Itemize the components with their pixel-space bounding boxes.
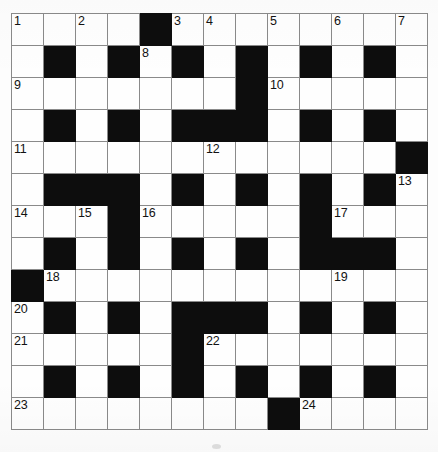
crossword-open-cell[interactable]: [108, 142, 140, 174]
crossword-open-cell[interactable]: 5: [268, 14, 300, 46]
crossword-open-cell[interactable]: [76, 334, 108, 366]
crossword-open-cell[interactable]: [396, 206, 428, 238]
crossword-open-cell[interactable]: [300, 14, 332, 46]
crossword-open-cell[interactable]: [76, 366, 108, 398]
crossword-open-cell[interactable]: [396, 334, 428, 366]
crossword-open-cell[interactable]: [236, 14, 268, 46]
crossword-open-cell[interactable]: 6: [332, 14, 364, 46]
crossword-open-cell[interactable]: 1: [12, 14, 44, 46]
crossword-open-cell[interactable]: [108, 398, 140, 430]
crossword-open-cell[interactable]: [140, 78, 172, 110]
crossword-open-cell[interactable]: [140, 398, 172, 430]
crossword-open-cell[interactable]: 19: [332, 270, 364, 302]
crossword-open-cell[interactable]: [332, 78, 364, 110]
crossword-open-cell[interactable]: [332, 398, 364, 430]
crossword-open-cell[interactable]: [140, 270, 172, 302]
crossword-open-cell[interactable]: [76, 46, 108, 78]
crossword-open-cell[interactable]: 8: [140, 46, 172, 78]
crossword-open-cell[interactable]: [268, 366, 300, 398]
crossword-open-cell[interactable]: [204, 46, 236, 78]
crossword-open-cell[interactable]: [268, 142, 300, 174]
crossword-open-cell[interactable]: 15: [76, 206, 108, 238]
crossword-open-cell[interactable]: [12, 366, 44, 398]
crossword-open-cell[interactable]: [332, 302, 364, 334]
crossword-open-cell[interactable]: 17: [332, 206, 364, 238]
crossword-grid[interactable]: 123456789101112131415161718192021222324: [11, 13, 428, 430]
crossword-open-cell[interactable]: [76, 270, 108, 302]
crossword-open-cell[interactable]: 4: [204, 14, 236, 46]
crossword-open-cell[interactable]: [140, 238, 172, 270]
crossword-open-cell[interactable]: [172, 398, 204, 430]
crossword-open-cell[interactable]: [236, 398, 268, 430]
crossword-open-cell[interactable]: 7: [396, 14, 428, 46]
crossword-open-cell[interactable]: [236, 142, 268, 174]
crossword-open-cell[interactable]: [108, 334, 140, 366]
crossword-open-cell[interactable]: [396, 238, 428, 270]
crossword-open-cell[interactable]: [12, 238, 44, 270]
crossword-open-cell[interactable]: [364, 398, 396, 430]
crossword-open-cell[interactable]: [140, 302, 172, 334]
crossword-open-cell[interactable]: [332, 366, 364, 398]
crossword-open-cell[interactable]: [396, 302, 428, 334]
crossword-open-cell[interactable]: [300, 142, 332, 174]
crossword-open-cell[interactable]: [364, 334, 396, 366]
crossword-open-cell[interactable]: 20: [12, 302, 44, 334]
crossword-open-cell[interactable]: 21: [12, 334, 44, 366]
crossword-open-cell[interactable]: [268, 270, 300, 302]
crossword-open-cell[interactable]: [268, 46, 300, 78]
crossword-open-cell[interactable]: [396, 398, 428, 430]
crossword-open-cell[interactable]: [332, 142, 364, 174]
crossword-open-cell[interactable]: [268, 238, 300, 270]
crossword-open-cell[interactable]: [44, 398, 76, 430]
crossword-open-cell[interactable]: 23: [12, 398, 44, 430]
crossword-open-cell[interactable]: [236, 270, 268, 302]
crossword-open-cell[interactable]: [140, 110, 172, 142]
crossword-open-cell[interactable]: [172, 206, 204, 238]
crossword-open-cell[interactable]: [364, 78, 396, 110]
crossword-open-cell[interactable]: [300, 334, 332, 366]
crossword-open-cell[interactable]: [300, 270, 332, 302]
crossword-open-cell[interactable]: [396, 110, 428, 142]
crossword-open-cell[interactable]: [76, 398, 108, 430]
crossword-open-cell[interactable]: 13: [396, 174, 428, 206]
crossword-open-cell[interactable]: [332, 334, 364, 366]
crossword-open-cell[interactable]: [396, 366, 428, 398]
crossword-open-cell[interactable]: [44, 206, 76, 238]
crossword-open-cell[interactable]: [108, 14, 140, 46]
crossword-open-cell[interactable]: [108, 78, 140, 110]
crossword-open-cell[interactable]: [204, 78, 236, 110]
crossword-open-cell[interactable]: 16: [140, 206, 172, 238]
crossword-open-cell[interactable]: [236, 334, 268, 366]
crossword-open-cell[interactable]: [204, 366, 236, 398]
crossword-open-cell[interactable]: [300, 78, 332, 110]
crossword-open-cell[interactable]: [204, 398, 236, 430]
crossword-open-cell[interactable]: [76, 78, 108, 110]
crossword-open-cell[interactable]: 9: [12, 78, 44, 110]
crossword-open-cell[interactable]: [364, 14, 396, 46]
crossword-open-cell[interactable]: [44, 334, 76, 366]
crossword-open-cell[interactable]: 18: [44, 270, 76, 302]
crossword-open-cell[interactable]: [140, 174, 172, 206]
crossword-open-cell[interactable]: [108, 270, 140, 302]
crossword-open-cell[interactable]: [396, 270, 428, 302]
crossword-open-cell[interactable]: [268, 334, 300, 366]
crossword-open-cell[interactable]: 10: [268, 78, 300, 110]
crossword-open-cell[interactable]: [76, 110, 108, 142]
crossword-open-cell[interactable]: [76, 238, 108, 270]
crossword-open-cell[interactable]: 22: [204, 334, 236, 366]
crossword-open-cell[interactable]: [172, 270, 204, 302]
crossword-open-cell[interactable]: [44, 78, 76, 110]
crossword-open-cell[interactable]: [364, 142, 396, 174]
crossword-open-cell[interactable]: [396, 78, 428, 110]
crossword-open-cell[interactable]: [332, 174, 364, 206]
crossword-open-cell[interactable]: [44, 142, 76, 174]
crossword-open-cell[interactable]: 24: [300, 398, 332, 430]
crossword-open-cell[interactable]: [140, 366, 172, 398]
crossword-open-cell[interactable]: 3: [172, 14, 204, 46]
crossword-open-cell[interactable]: [140, 334, 172, 366]
crossword-open-cell[interactable]: [172, 142, 204, 174]
crossword-open-cell[interactable]: [268, 174, 300, 206]
crossword-open-cell[interactable]: [364, 270, 396, 302]
crossword-open-cell[interactable]: 11: [12, 142, 44, 174]
crossword-open-cell[interactable]: [332, 110, 364, 142]
